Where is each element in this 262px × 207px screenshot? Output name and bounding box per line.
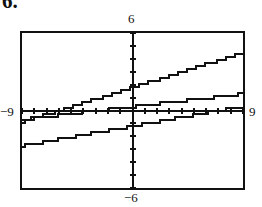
axis-label-right: 9 <box>249 105 256 118</box>
axis-label-top: 6 <box>128 12 135 25</box>
plot-area <box>22 33 243 188</box>
calculator-screen <box>20 31 245 190</box>
figure-root: 6. 6 −6 −9 9 <box>0 0 262 207</box>
axis-label-left: −9 <box>0 105 14 118</box>
graph-svg <box>22 33 243 188</box>
problem-number: 6. <box>2 0 18 12</box>
axis-label-bottom: −6 <box>124 191 138 204</box>
